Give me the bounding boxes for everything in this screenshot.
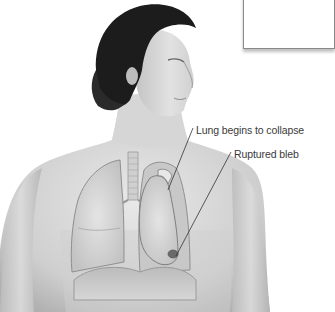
- label-ruptured-bleb: Ruptured bleb: [234, 148, 299, 160]
- label-lung-begins-to-collapse: Lung begins to collapse: [196, 124, 304, 136]
- empty-frame-box: [243, 0, 335, 49]
- ruptured-bleb-marker: [168, 250, 178, 258]
- diaphragm: [74, 267, 196, 300]
